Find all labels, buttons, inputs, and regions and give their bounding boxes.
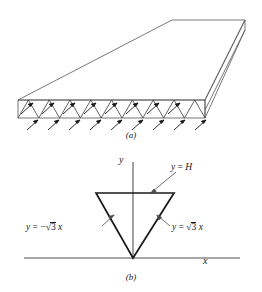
annotation-right-lhs: y	[172, 222, 176, 232]
annotation-left-var: x	[58, 222, 62, 232]
annotation-right-edge-equation: y = √3 x	[172, 222, 203, 233]
annotation-right-eq: =	[179, 222, 184, 232]
panel-b-triangle-diagram	[0, 146, 262, 292]
plate-front-face	[18, 100, 205, 118]
annotation-yh-eq: =	[178, 162, 183, 172]
leader-right-edge	[157, 215, 170, 226]
annotation-left-lhs: y	[26, 222, 30, 232]
y-axis-label: y	[119, 154, 123, 165]
annotation-left-radicand: 3	[50, 222, 56, 233]
annotation-right-var: x	[199, 222, 203, 232]
annotation-yh-lhs: y	[171, 162, 175, 172]
plate-internal-arrows	[21, 103, 180, 114]
panel-a-plate-diagram	[0, 0, 262, 146]
plate-edge-hatching	[18, 100, 205, 118]
figure-caption-b: (b)	[111, 272, 151, 282]
figure-caption-a: (a)	[111, 130, 151, 140]
plate-right-inner-edge	[205, 30, 245, 110]
x-axis-label: x	[203, 255, 207, 266]
annotation-yh-rhs: H	[185, 162, 192, 172]
annotation-right-radicand: 3	[191, 222, 197, 233]
annotation-left-eq: =	[33, 222, 38, 232]
annotation-y-equals-H: y = H	[171, 162, 192, 172]
triangle-cross-section	[96, 193, 174, 258]
plate-right-face	[205, 20, 245, 118]
leader-y-equals-H	[151, 172, 177, 193]
figure-page: (a) (b) y x y = H y = −√3 x y = √3 x	[0, 0, 262, 292]
plate-support-arrows	[27, 120, 206, 130]
annotation-left-edge-equation: y = −√3 x	[26, 222, 62, 233]
